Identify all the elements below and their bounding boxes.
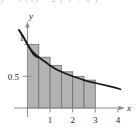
y-tick-label: 0.5	[8, 72, 20, 82]
y-axis-arrow	[25, 22, 30, 28]
riemann-rectangles	[28, 45, 96, 109]
riemann-bar	[84, 80, 95, 108]
riemann-sum-plot: x y 1 2 3 4 0.5 1	[0, 0, 140, 130]
x-tick-label: 2	[70, 115, 75, 125]
y-axis-label: y	[28, 11, 33, 21]
x-tick-labels: 1 2 3 4	[48, 115, 121, 125]
x-axis-label: x	[126, 103, 131, 113]
riemann-bar	[73, 76, 84, 108]
x-tick-label: 1	[48, 115, 53, 125]
figure-container: y = f (x) = 2 ( 1 + x ) x y	[0, 0, 140, 130]
x-axis-arrow	[119, 106, 125, 111]
x-tick-label: 3	[93, 115, 98, 125]
x-tick-marks	[50, 108, 118, 113]
riemann-bar	[61, 72, 72, 108]
x-tick-label: 4	[116, 115, 121, 125]
